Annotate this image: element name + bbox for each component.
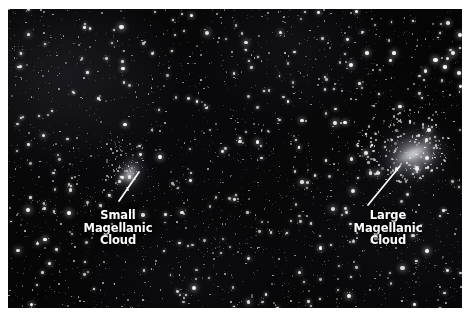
airglow-wash xyxy=(8,9,462,308)
starfield-photo: Small Magellanic Cloud Large Magellanic … xyxy=(8,9,462,308)
